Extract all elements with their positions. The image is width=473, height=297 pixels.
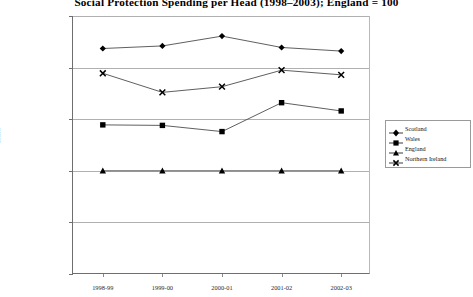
- square-marker-icon: [388, 134, 404, 144]
- legend-label: Wales: [404, 134, 420, 144]
- legend-label: Northern Ireland: [404, 154, 446, 164]
- chart-legend: Scotland Wales England: [385, 120, 471, 168]
- x-axis-tick-mark: [282, 274, 283, 277]
- plot-area: 80901001101201301998-991999-002000-01200…: [72, 16, 370, 274]
- series-northern-ireland: [100, 67, 344, 95]
- series-layer: [73, 16, 371, 274]
- y-axis-tick-mark: [69, 274, 73, 275]
- x-axis-tick-label: 2002-03: [306, 284, 376, 291]
- legend-item-wales[interactable]: Wales: [388, 134, 467, 144]
- series-wales: [100, 100, 344, 134]
- diamond-marker-icon: [388, 124, 404, 134]
- x-axis-tick-mark: [162, 274, 163, 277]
- legend-item-scotland[interactable]: Scotland: [388, 124, 467, 134]
- legend-item-northern-ireland[interactable]: Northern Ireland: [388, 154, 467, 164]
- cross-marker-icon: [388, 154, 404, 164]
- chart-container: Social Protection Spending per Head (199…: [0, 0, 473, 297]
- plot-inner: 80901001101201301998-991999-002000-01200…: [73, 16, 369, 273]
- chart-title: Social Protection Spending per Head (199…: [0, 0, 473, 8]
- legend-label: Scotland: [404, 124, 427, 134]
- x-axis-tick-mark: [103, 274, 104, 277]
- y-axis-label: Index: [0, 128, 1, 143]
- x-axis-tick-mark: [341, 274, 342, 277]
- legend-item-england[interactable]: England: [388, 144, 467, 154]
- triangle-marker-icon: [388, 144, 404, 154]
- series-england: [100, 168, 345, 174]
- legend-label: England: [404, 144, 426, 154]
- x-axis-tick-mark: [222, 274, 223, 277]
- series-scotland: [100, 33, 345, 54]
